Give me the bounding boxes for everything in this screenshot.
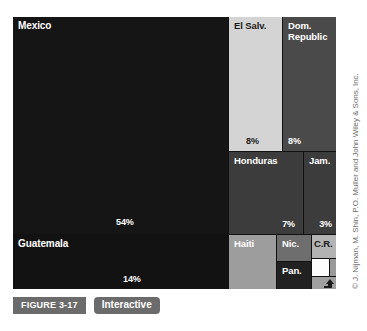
treemap-cell-label-nicaragua: Nic. [282, 238, 299, 249]
treemap-cell-guatemala[interactable]: Guatemala 14% [13, 235, 228, 289]
treemap-cell-mexico[interactable]: Mexico 54% [13, 17, 228, 234]
treemap-cell-label-jamaica: Jam. [309, 155, 330, 166]
treemap-cell-label-haiti: Haiti [234, 238, 254, 249]
treemap-cell-value-mexico: 54% [116, 217, 134, 227]
treemap-cell-label-guatemala: Guatemala [18, 238, 68, 249]
treemap-cell-value-el-salvador: 8% [246, 136, 259, 146]
treemap-cell-value-jamaica: 3% [319, 219, 332, 229]
treemap-cell-label-dominican-republic: Dom. Republic [288, 20, 327, 42]
treemap-cell-label-mexico: Mexico [18, 20, 51, 31]
copyright-notice: © J. Nijman, M. Shin, P.O. Muller and Jo… [338, 17, 354, 289]
treemap-chart: Mexico 54% Guatemala 14% El Salv. 8% Dom… [13, 17, 336, 289]
figure-caption-bar: FIGURE 3-17 Interactive [13, 297, 160, 314]
treemap-cell-nicaragua[interactable]: Nic. [277, 235, 311, 261]
treemap-cell-swatch [312, 259, 329, 276]
treemap-cell-value-guatemala: 14% [123, 274, 141, 284]
cursor-arrow-icon [323, 279, 334, 289]
treemap-cell-value-dominican-republic: 8% [288, 136, 301, 146]
treemap-cell-dominican-republic[interactable]: Dom. Republic 8% [283, 17, 336, 151]
treemap-cell-filler-right [330, 259, 336, 276]
treemap-cell-label-costa-rica: C.R. [314, 238, 333, 249]
treemap-cell-label-panama: Pan. [282, 265, 302, 276]
figure-number-badge: FIGURE 3-17 [13, 297, 86, 314]
treemap-cell-honduras[interactable]: Honduras 7% [229, 152, 303, 234]
treemap-cell-costa-rica[interactable]: C.R. [312, 235, 336, 258]
treemap-cell-el-salvador[interactable]: El Salv. 8% [229, 17, 282, 151]
treemap-cell-label-el-salvador: El Salv. [234, 20, 266, 31]
treemap-cell-value-honduras: 7% [282, 219, 295, 229]
treemap-cell-label-honduras: Honduras [234, 155, 278, 166]
copyright-text: © J. Nijman, M. Shin, P.O. Muller and Jo… [351, 17, 360, 289]
treemap-cell-haiti[interactable]: Haiti [229, 235, 276, 289]
interactive-badge[interactable]: Interactive [94, 297, 160, 314]
treemap-cell-panama[interactable]: Pan. [277, 262, 311, 289]
figure-container: Mexico 54% Guatemala 14% El Salv. 8% Dom… [0, 0, 367, 331]
treemap-cell-jamaica[interactable]: Jam. 3% [304, 152, 336, 234]
